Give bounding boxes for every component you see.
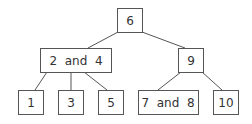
node-root: 6	[118, 9, 143, 33]
node-leaf78-label: 7 and 8	[141, 96, 194, 110]
edge-root-right	[142, 32, 185, 48]
node-right-label: 9	[187, 54, 195, 68]
node-leaf3-label: 3	[67, 96, 75, 110]
edge-right-leaf10	[202, 72, 222, 90]
node-leaf3: 3	[59, 91, 84, 115]
edge-left-leaf1	[35, 72, 47, 90]
tree-diagram: 6 2 and 4 9 1 3 5 7 and 8 10	[0, 0, 252, 124]
node-leaf1: 1	[19, 91, 44, 115]
node-leaf10: 10	[214, 91, 239, 115]
node-leaf5-label: 5	[107, 96, 115, 110]
node-leaf5: 5	[99, 91, 124, 115]
node-leaf78: 7 and 8	[139, 91, 199, 115]
edge-right-leaf78	[158, 72, 181, 90]
edge-root-left	[88, 32, 118, 48]
node-leaf10-label: 10	[218, 96, 233, 110]
node-right: 9	[179, 49, 204, 73]
node-leaf1-label: 1	[27, 96, 35, 110]
edge-left-leaf5	[84, 72, 107, 90]
node-root-label: 6	[126, 14, 134, 28]
node-left-label: 2 and 4	[49, 54, 102, 68]
node-left: 2 and 4	[41, 49, 112, 73]
